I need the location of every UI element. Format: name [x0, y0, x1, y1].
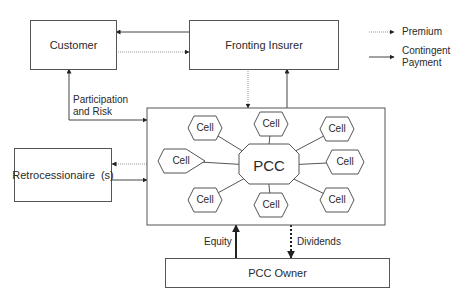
cell-label-6: Cell — [190, 194, 220, 206]
fronting-insurer-box: Fronting Insurer — [189, 20, 339, 70]
pcc-label: PCC — [241, 157, 297, 175]
participation-label-line2: and Risk — [73, 106, 112, 118]
fronting-insurer-label: Fronting Insurer — [225, 39, 303, 51]
cell-label-1: Cell — [190, 122, 220, 134]
cell-label-4: Cell — [166, 155, 196, 167]
legend-premium-label: Premium — [402, 26, 442, 38]
customer-box: Customer — [30, 20, 117, 70]
retrocessionaire-box: Retrocessionaire (s) — [14, 148, 112, 202]
cell-label-7: Cell — [256, 199, 286, 211]
pcc-owner-label: PCC Owner — [248, 267, 307, 279]
cell-label-5: Cell — [330, 156, 360, 168]
cell-label-3: Cell — [322, 123, 352, 135]
equity-label: Equity — [204, 236, 232, 248]
legend-contingent-label-line2: Payment — [402, 57, 441, 69]
participation-label-line1: Participation — [73, 94, 128, 106]
dividends-label: Dividends — [297, 236, 341, 248]
customer-label: Customer — [50, 39, 98, 51]
legend-contingent-label-line1: Contingent — [402, 45, 450, 57]
retrocessionaire-label: Retrocessionaire (s) — [12, 169, 113, 181]
pcc-owner-box: PCC Owner — [165, 258, 390, 288]
cell-label-8: Cell — [322, 194, 352, 206]
cell-label-2: Cell — [256, 118, 286, 130]
